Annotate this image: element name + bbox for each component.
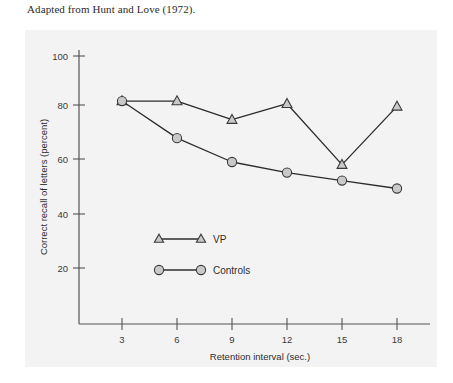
x-tick-label-6: 6 — [174, 334, 179, 345]
y-axis-title: Correct recall of letters (percent) — [38, 119, 49, 255]
y-tick-label-20: 20 — [57, 263, 68, 274]
x-tick-label-12: 12 — [282, 334, 293, 345]
y-tick-label-100: 100 — [52, 51, 68, 62]
y-tick-label-40: 40 — [57, 209, 68, 220]
x-tick-label-15: 15 — [337, 334, 348, 345]
figure-caption: Adapted from Hunt and Love (1972). — [27, 3, 195, 15]
x-axis-ticks: 3 6 9 12 15 18 — [119, 318, 402, 345]
triangle-icon[interactable] — [172, 96, 182, 105]
legend: VP Controls — [154, 234, 250, 276]
legend-entry-vp[interactable]: VP — [154, 234, 226, 245]
x-tick-label-9: 9 — [229, 334, 234, 345]
series-line-vp — [122, 101, 397, 165]
triangle-icon — [154, 234, 163, 242]
circle-icon — [154, 265, 163, 274]
legend-label-controls: Controls — [213, 265, 250, 276]
legend-entry-controls[interactable]: Controls — [154, 265, 250, 276]
line-chart: 100 80 60 40 20 3 6 9 12 15 18 — [25, 30, 437, 367]
triangle-icon[interactable] — [392, 101, 402, 110]
y-tick-label-80: 80 — [57, 100, 68, 111]
series-layer — [117, 96, 402, 193]
circle-icon[interactable] — [282, 168, 291, 177]
series-vp — [117, 96, 402, 169]
circle-icon[interactable] — [392, 184, 401, 193]
y-tick-label-60: 60 — [57, 154, 68, 165]
x-tick-label-3: 3 — [119, 334, 124, 345]
y-axis-ticks: 100 80 60 40 20 — [52, 51, 85, 274]
figure-panel: 100 80 60 40 20 3 6 9 12 15 18 — [25, 30, 437, 367]
circle-icon — [196, 265, 205, 274]
legend-label-vp: VP — [213, 234, 227, 245]
circle-icon[interactable] — [337, 176, 346, 185]
circle-icon[interactable] — [172, 134, 181, 143]
circle-icon[interactable] — [227, 157, 236, 166]
triangle-icon[interactable] — [282, 99, 292, 108]
x-axis-title: Retention interval (sec.) — [210, 351, 310, 362]
circle-icon[interactable] — [117, 96, 126, 105]
x-tick-label-18: 18 — [392, 334, 403, 345]
series-line-controls — [122, 101, 397, 188]
series-controls — [117, 96, 401, 193]
triangle-icon — [196, 234, 205, 242]
